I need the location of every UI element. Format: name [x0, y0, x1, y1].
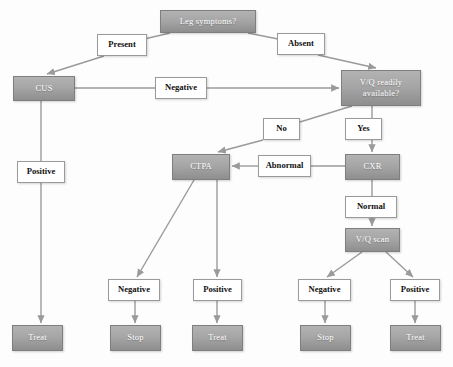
node-treat-vq-positive[interactable]: Treat — [390, 325, 441, 351]
flowchart-canvas: Leg symptoms? CUS V/Q readily available?… — [0, 0, 453, 367]
flowchart-edges — [0, 0, 453, 367]
edge-vqscan-negative — [327, 252, 362, 277]
node-cxr[interactable]: CXR — [345, 154, 400, 180]
edge-label-negative-vq[interactable]: Negative — [298, 279, 351, 301]
edge-label-abnormal[interactable]: Abnormal — [258, 155, 311, 177]
edge-label-positive-cus[interactable]: Positive — [17, 161, 65, 183]
node-vq-readily-available[interactable]: V/Q readily available? — [341, 70, 421, 106]
edge-label-positive-ctpa[interactable]: Positive — [193, 279, 242, 301]
edge-label-yes[interactable]: Yes — [345, 118, 382, 140]
node-treat-ctpa-positive[interactable]: Treat — [192, 325, 243, 351]
node-vq-scan[interactable]: V/Q scan — [345, 228, 400, 252]
edge-ctpa-negative — [137, 180, 194, 277]
edge-label-negative-ctpa[interactable]: Negative — [108, 279, 160, 301]
edge-label-present[interactable]: Present — [97, 34, 147, 56]
node-treat-cus-positive[interactable]: Treat — [12, 325, 63, 351]
edge-label-normal[interactable]: Normal — [345, 196, 397, 218]
node-leg-symptoms[interactable]: Leg symptoms? — [160, 10, 256, 33]
edge-label-negative-cus[interactable]: Negative — [155, 77, 207, 99]
node-stop-vq-negative[interactable]: Stop — [300, 325, 351, 351]
edge-label-absent[interactable]: Absent — [277, 33, 325, 55]
edge-label-no[interactable]: No — [263, 118, 300, 140]
node-cus[interactable]: CUS — [13, 76, 75, 101]
edge-no-ctpa — [218, 140, 263, 152]
node-ctpa[interactable]: CTPA — [172, 154, 230, 180]
node-stop-ctpa-negative[interactable]: Stop — [110, 325, 161, 351]
edge-vqscan-positive — [386, 252, 413, 277]
edge-absent-vq — [318, 55, 376, 68]
edge-label-positive-vq[interactable]: Positive — [390, 279, 440, 301]
edge-present-cus — [47, 56, 104, 74]
